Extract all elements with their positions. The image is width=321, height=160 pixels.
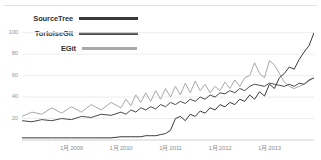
y-axis-tick-label: 20 xyxy=(1,115,18,121)
chart-canvas xyxy=(22,22,314,142)
legend-color-swatch xyxy=(79,17,138,20)
x-axis-tick-label: 1月 2011 xyxy=(147,143,193,152)
top-divider xyxy=(4,5,317,6)
series-line-sourcetree[interactable] xyxy=(22,33,314,138)
y-axis-tick-label: 60 xyxy=(1,72,18,78)
y-axis-tick-label: 40 xyxy=(1,93,18,99)
plot-area xyxy=(22,22,314,140)
x-axis-tick-label: 1月 2012 xyxy=(197,143,243,152)
trends-chart-widget: SourceTreeTortoiseGitEGit 10080604020 1月… xyxy=(0,0,321,160)
x-axis-tick-label: 1月 2010 xyxy=(98,143,144,152)
y-axis-tick-label: 80 xyxy=(1,50,18,56)
x-axis-tick-label: 1月 2009 xyxy=(48,143,94,152)
x-axis-tick-label: 1月 2013 xyxy=(246,143,292,152)
y-axis-tick-label: 100 xyxy=(1,29,18,35)
series-line-egit[interactable] xyxy=(22,61,314,117)
